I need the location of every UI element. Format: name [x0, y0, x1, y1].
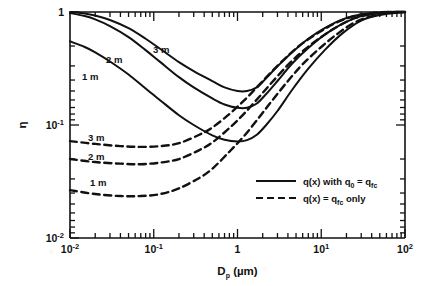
data-curves [70, 12, 405, 196]
legend-label-solid: q(x) with q0 = qfc [303, 176, 377, 189]
x-tick-3-exp: 1 [325, 242, 329, 251]
x-tick-3-base: 10 [313, 243, 325, 255]
y-axis-ticks [70, 12, 79, 238]
x-tick-4-base: 10 [397, 243, 409, 255]
curve-label-dashed-1m: 1 m [90, 177, 106, 188]
x-tick-0-base: 10 [61, 243, 73, 255]
x-axis-ticks [70, 229, 405, 238]
svg-text:101: 101 [313, 242, 329, 255]
chart-svg: 10-2 10-1 1 101 102 1 10-1 10- [0, 0, 427, 286]
y-tick-1-exp: -1 [57, 118, 64, 127]
x-tick-1-base: 10 [145, 243, 157, 255]
curve-annotations: 3 m 2 m 1 m 3 m 2 m 1 m [82, 44, 169, 188]
legend-solid-prefix: q(x) with q [303, 176, 351, 187]
legend-solid-sub2: fc [371, 182, 377, 189]
legend: q(x) with q0 = qfc q(x) = qfc only [256, 176, 377, 206]
legend-solid-mid: = q [354, 176, 371, 187]
x-tick-2-base: 1 [235, 243, 241, 255]
x-tick-labels: 10-2 10-1 1 101 102 [61, 242, 413, 255]
curve-label-solid-1m: 1 m [82, 71, 98, 82]
y-tick-2-exp: -2 [57, 231, 64, 240]
x-axis-title: Dp (µm) [217, 265, 257, 280]
curve-dashed-1m [70, 12, 405, 196]
curve-label-solid-2m: 2 m [106, 54, 122, 65]
x-tick-4-exp: 2 [409, 242, 413, 251]
legend-dashed-prefix: q(x) = q [303, 193, 337, 204]
figure-canvas: 10-2 10-1 1 101 102 1 10-1 10- [0, 0, 427, 286]
svg-text:1: 1 [235, 243, 241, 255]
svg-text:10-1: 10-1 [46, 118, 64, 131]
y-axis-title: η [16, 121, 28, 128]
curve-label-dashed-3m: 3 m [88, 132, 104, 143]
y-tick-0-base: 1 [58, 6, 64, 18]
svg-text:10-2: 10-2 [61, 242, 79, 255]
x-axis-title-main: D [217, 265, 225, 277]
curve-label-solid-3m: 3 m [153, 44, 169, 55]
axes-frame [70, 12, 405, 238]
legend-label-dashed: q(x) = qfc only [303, 193, 366, 206]
legend-dashed-mid: only [343, 193, 366, 204]
svg-text:10-1: 10-1 [145, 242, 163, 255]
svg-text:1: 1 [58, 6, 64, 18]
svg-text:102: 102 [397, 242, 413, 255]
curve-label-dashed-2m: 2 m [88, 151, 104, 162]
y-tick-1-base: 10 [46, 119, 58, 131]
y-tick-labels: 1 10-1 10-2 [46, 6, 65, 244]
x-tick-1-exp: -1 [156, 242, 163, 251]
y-axis-ticks-right [396, 46, 405, 233]
x-tick-0-exp: -2 [73, 242, 80, 251]
x-axis-title-unit: (µm) [233, 265, 258, 277]
y-tick-2-base: 10 [46, 232, 58, 244]
